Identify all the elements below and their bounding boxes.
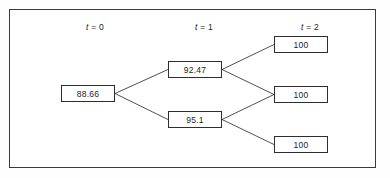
tree-node-t2-1: 100: [274, 86, 328, 103]
edge-t0-0-to-t1-1: [115, 94, 168, 120]
period-label-t2-value: = 2: [304, 22, 319, 32]
edge-t1-1-to-t2-1: [222, 95, 274, 120]
tree-node-t1-0: 92.47: [168, 61, 222, 78]
tree-node-t1-0-value: 92.47: [184, 65, 206, 75]
period-label-t2: t = 2: [275, 22, 345, 32]
tree-node-t2-0: 100: [274, 36, 328, 53]
tree-node-t1-1: 95.1: [168, 111, 222, 128]
tree-node-t2-0-value: 100: [294, 40, 309, 50]
edge-t1-0-to-t2-0: [222, 45, 274, 70]
period-label-t1: t = 1: [169, 22, 239, 32]
figure-frame: t = 0 t = 1 t = 2 88.66 92.47 95.1 100 1…: [9, 9, 376, 168]
period-label-t0: t = 0: [60, 22, 130, 32]
figure-root: t = 0 t = 1 t = 2 88.66 92.47 95.1 100 1…: [0, 0, 390, 178]
tree-node-t0-0-value: 88.66: [77, 89, 99, 99]
period-label-t0-value: = 0: [89, 22, 104, 32]
edge-t0-0-to-t1-0: [115, 70, 168, 94]
edge-t1-0-to-t2-1: [222, 70, 274, 95]
tree-node-t2-2: 100: [274, 136, 328, 153]
tree-node-t2-2-value: 100: [294, 140, 309, 150]
tree-node-t0-0: 88.66: [61, 85, 115, 102]
period-label-t1-value: = 1: [198, 22, 213, 32]
edge-t1-1-to-t2-2: [222, 120, 274, 145]
tree-node-t1-1-value: 95.1: [186, 115, 203, 125]
tree-node-t2-1-value: 100: [294, 90, 309, 100]
